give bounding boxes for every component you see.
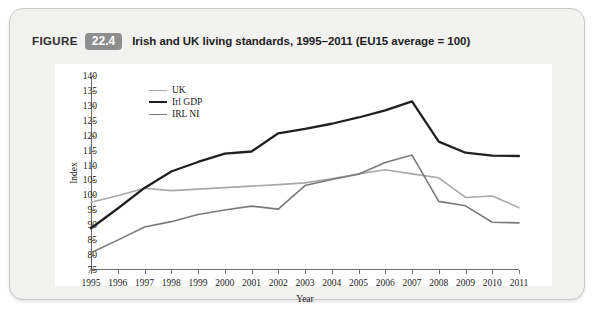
x-tick-mark: [412, 270, 413, 274]
x-tick-label: 2011: [499, 278, 539, 288]
legend-swatch-icon: [149, 101, 167, 103]
figure-header: FIGURE 22.4 Irish and UK living standard…: [32, 31, 470, 51]
x-tick-mark: [519, 270, 520, 274]
figure-caption: Irish and UK living standards, 1995–2011…: [132, 35, 470, 47]
legend-label: Irl GDP: [172, 97, 202, 107]
legend-swatch-icon: [149, 114, 167, 115]
chart-plot-area: 7580859095100105110115120125130135140 19…: [91, 76, 519, 270]
series-line: [91, 170, 519, 208]
chart-panel: 7580859095100105110115120125130135140 19…: [55, 64, 552, 286]
x-tick-mark: [466, 270, 467, 274]
figure-label: FIGURE: [32, 35, 78, 47]
series-line: [91, 155, 519, 253]
x-tick-mark: [225, 270, 226, 274]
x-tick-mark: [278, 270, 279, 274]
x-tick-mark: [385, 270, 386, 274]
y-axis-title: Index: [69, 162, 79, 184]
x-tick-mark: [439, 270, 440, 274]
chart-legend: UKIrl GDPIRL NI: [149, 84, 202, 120]
x-tick-mark: [252, 270, 253, 274]
x-tick-mark: [198, 270, 199, 274]
legend-swatch-icon: [149, 90, 167, 91]
x-axis-title: Year: [91, 294, 519, 304]
figure-card: FIGURE 22.4 Irish and UK living standard…: [9, 8, 585, 300]
x-tick-mark: [91, 270, 92, 274]
legend-item: IRL NI: [149, 108, 202, 120]
series-line: [91, 101, 519, 228]
x-tick-mark: [359, 270, 360, 274]
legend-item: UK: [149, 84, 202, 96]
figure-number-badge: 22.4: [85, 33, 122, 50]
legend-item: Irl GDP: [149, 96, 202, 108]
x-tick-mark: [332, 270, 333, 274]
x-tick-mark: [171, 270, 172, 274]
x-tick-mark: [492, 270, 493, 274]
x-tick-mark: [118, 270, 119, 274]
x-tick-mark: [145, 270, 146, 274]
x-tick-mark: [305, 270, 306, 274]
legend-label: UK: [172, 85, 186, 95]
legend-label: IRL NI: [172, 109, 199, 119]
